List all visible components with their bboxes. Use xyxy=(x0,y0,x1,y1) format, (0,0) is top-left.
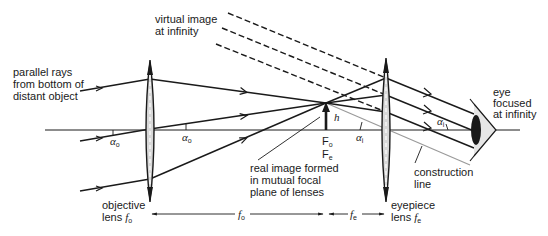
fe-dimension-label: fe xyxy=(350,208,357,221)
fo-point-label: Fo xyxy=(322,135,333,148)
fe-point-label: Fe xyxy=(322,148,333,161)
fo-dimension-label: fo xyxy=(238,208,245,221)
telescope-diagram: virtual image at infinity parallel rays … xyxy=(0,0,548,236)
virtual-image-rays xyxy=(216,13,386,112)
real-image-label: real image formed xyxy=(250,162,339,174)
eyepiece-lens-label: eyepiece xyxy=(391,199,435,211)
image-height-label: h xyxy=(334,111,340,123)
real-image-label-3: plane of lenses xyxy=(250,186,324,198)
virtual-image-label: virtual image xyxy=(155,13,217,25)
construction-line-label-2: line xyxy=(414,178,431,190)
eyepiece-lens-label-2: lens fe xyxy=(391,211,421,224)
virtual-image-label-2: at infinity xyxy=(155,25,199,37)
real-image-pointer xyxy=(258,117,320,160)
parallel-rays-label: parallel rays xyxy=(13,66,73,78)
alpha-i-label-2: αi xyxy=(437,115,445,128)
construction-line-label: construction xyxy=(414,166,473,178)
objective-lens xyxy=(146,60,154,202)
objective-lens-label: objective xyxy=(102,199,145,211)
alpha-o-label-1: αo xyxy=(110,135,120,148)
alpha-i-label-1: αi xyxy=(356,131,364,144)
real-image-arrow xyxy=(322,102,330,130)
construction-pointer xyxy=(415,146,422,163)
objective-lens-label-2: lens fo xyxy=(102,211,132,224)
parallel-rays-label-2: from bottom of xyxy=(13,78,85,90)
construction-line xyxy=(326,103,470,165)
eye-label-3: at infinity xyxy=(493,108,537,120)
alpha-o-label-2: αo xyxy=(182,131,192,144)
real-image-label-2: in mutual focal xyxy=(250,174,321,186)
parallel-rays-label-3: distant object xyxy=(13,90,78,102)
emergent-rays xyxy=(386,78,474,148)
